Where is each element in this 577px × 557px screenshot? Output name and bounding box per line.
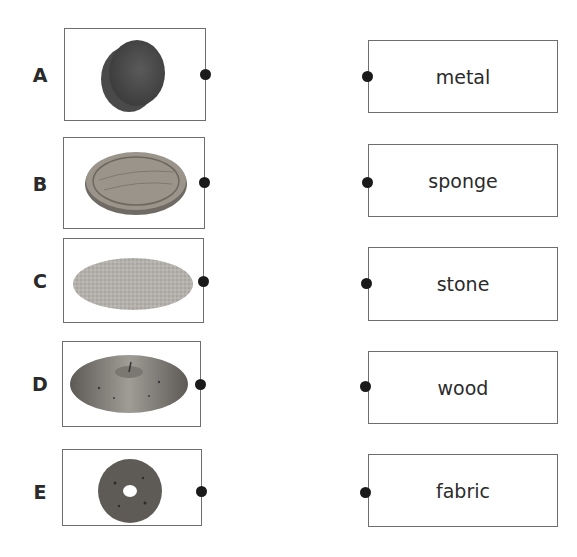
- connector-dot-metal[interactable]: [362, 71, 373, 82]
- word-box-stone: stone: [368, 247, 558, 321]
- connector-dot-c[interactable]: [198, 276, 209, 287]
- wooden-board-icon: [84, 150, 188, 216]
- word-label: sponge: [428, 170, 497, 192]
- fabric-mat-icon: [72, 255, 194, 311]
- word-label: fabric: [436, 480, 490, 502]
- sponge-icon: [93, 35, 173, 115]
- connector-dot-wood[interactable]: [360, 381, 371, 392]
- connector-dot-e[interactable]: [196, 486, 207, 497]
- word-box-fabric: fabric: [368, 454, 558, 527]
- word-label: wood: [438, 377, 489, 399]
- word-box-wood: wood: [368, 351, 558, 424]
- stone-ring-icon: [95, 458, 165, 524]
- connector-dot-b[interactable]: [199, 177, 210, 188]
- picture-box-d: [62, 341, 201, 427]
- item-letter-c: C: [30, 272, 50, 291]
- item-letter-b: B: [30, 175, 50, 194]
- word-label: stone: [437, 273, 490, 295]
- item-letter-a: A: [30, 66, 50, 85]
- word-label: metal: [436, 66, 491, 88]
- connector-dot-stone[interactable]: [361, 278, 372, 289]
- connector-dot-sponge[interactable]: [362, 177, 373, 188]
- picture-box-e: [62, 449, 202, 526]
- connector-dot-fabric[interactable]: [360, 487, 371, 498]
- connector-dot-d[interactable]: [195, 379, 206, 390]
- picture-box-a: [64, 28, 206, 121]
- item-letter-d: D: [30, 375, 50, 394]
- picture-box-c: [63, 238, 204, 323]
- word-box-sponge: sponge: [368, 144, 558, 217]
- connector-dot-a[interactable]: [200, 69, 211, 80]
- item-letter-e: E: [30, 483, 50, 502]
- word-box-metal: metal: [368, 40, 558, 113]
- cymbal-icon: [69, 352, 189, 414]
- picture-box-b: [63, 137, 205, 229]
